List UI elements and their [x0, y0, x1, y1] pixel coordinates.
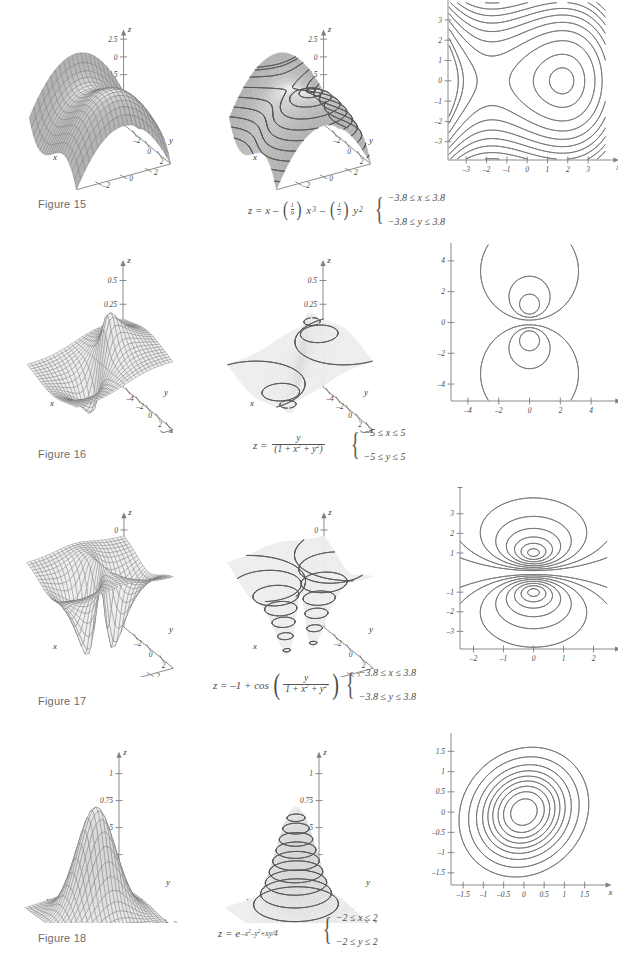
svg-text:–1: –1 [479, 890, 488, 899]
svg-text:–2: –2 [132, 136, 141, 145]
figure-16-label: Figure 16 [38, 448, 86, 460]
svg-text:x: x [249, 398, 254, 408]
svg-text:y: y [168, 624, 173, 634]
svg-text:0: 0 [114, 526, 118, 535]
svg-text:4: 4 [589, 406, 593, 415]
figure-15-wireframe: z2.50–2.5–5–7.5–20220–2xy [8, 0, 208, 190]
svg-text:2.5: 2.5 [108, 35, 118, 44]
contour-map-plot-17: –2–1012–3–2–1123xy [418, 487, 618, 677]
svg-text:0: 0 [148, 411, 152, 420]
svg-text:–2: –2 [469, 654, 478, 663]
svg-text:0.5: 0.5 [539, 890, 549, 899]
svg-text:0.5: 0.5 [436, 787, 446, 796]
svg-text:y: y [368, 624, 373, 634]
svg-text:1: 1 [450, 549, 454, 558]
svg-text:z: z [322, 747, 327, 757]
svg-text:0: 0 [314, 526, 318, 535]
svg-text:z: z [327, 24, 332, 34]
svg-text:z: z [127, 507, 132, 517]
svg-text:2: 2 [566, 165, 570, 174]
svg-text:1.5: 1.5 [436, 747, 446, 756]
svg-text:0: 0 [114, 53, 118, 62]
svg-text:2: 2 [154, 168, 158, 177]
svg-text:0.5: 0.5 [108, 276, 118, 285]
figure-row-16: z0.50.250–0.25–0.5–4–2024420–2–4xy z0.50… [0, 243, 623, 490]
svg-text:3: 3 [449, 509, 454, 518]
svg-text:–2: –2 [482, 165, 491, 174]
svg-text:x: x [617, 403, 618, 413]
svg-text:y: y [168, 135, 173, 145]
figure-16-contour-map: –4–2024–4–2024xy [418, 243, 618, 433]
svg-text:y: y [363, 387, 368, 397]
contour-map-plot-15: –3–2–10123–3–2–10123xy [418, 0, 618, 190]
svg-text:2: 2 [158, 420, 162, 429]
svg-text:0: 0 [314, 53, 318, 62]
svg-text:–4: –4 [437, 380, 446, 389]
svg-text:–3: –3 [446, 627, 455, 636]
svg-text:1: 1 [441, 767, 445, 776]
figure-15-contour-surface: z2.50–2.5–5–7.5–20220–2xy [208, 0, 408, 190]
svg-text:2: 2 [173, 920, 177, 923]
contour-surface-plot-16: z0.50.250–0.25–0.5–4–2024420–2–4xy [208, 243, 408, 433]
svg-text:4: 4 [169, 430, 173, 433]
svg-text:0: 0 [525, 165, 529, 174]
svg-text:z: z [126, 255, 131, 265]
svg-text:1: 1 [546, 165, 550, 174]
figure-17-domain-y: −3.8 ≤ y ≤ 3.8 [359, 691, 416, 702]
figure-17-contour-surface: z0–0.05–0.1–20220–2xy [208, 487, 408, 677]
svg-text:0.75: 0.75 [100, 796, 113, 805]
figure-18-wireframe: z10.750.50.250–2–1012210–1–2xy [8, 733, 208, 923]
figure-18-contour-surface: z10.750.50.250–2–1012210–1–2xy [208, 733, 408, 923]
svg-text:3: 3 [437, 16, 442, 25]
figure-row-18: z10.750.50.250–2–1012210–1–2xy z10.750.5… [0, 733, 623, 963]
svg-text:–3: –3 [434, 137, 443, 146]
figure-18-domain-x: −2 ≤ x ≤ 2 [336, 912, 378, 923]
contour-surface-plot-15: z2.50–2.5–5–7.5–20220–2xy [208, 0, 408, 190]
svg-text:0: 0 [441, 318, 445, 327]
figure-17-domain-x: −3.8 ≤ x ≤ 3.8 [359, 667, 416, 678]
wireframe-plot-16: z0.50.250–0.25–0.5–4–2024420–2–4xy [8, 243, 208, 433]
svg-text:–2: –2 [434, 117, 443, 126]
svg-text:–4: –4 [463, 406, 472, 415]
svg-text:y: y [163, 387, 168, 397]
svg-text:–2: –2 [494, 406, 503, 415]
svg-text:3: 3 [585, 165, 590, 174]
figure-17-contour-map: –2–1012–3–2–1123xy [418, 487, 618, 677]
svg-text:–1: –1 [437, 848, 446, 857]
svg-text:0: 0 [129, 174, 133, 183]
figure-17-equation: z = –1 + cos (y1 + x2 + y2) { −3.8 ≤ x ≤… [213, 667, 416, 702]
svg-text:2: 2 [360, 157, 364, 166]
figure-18-contour-map: –1.5–1–0.500.511.5–1.5–1–0.500.511.5xy [418, 733, 618, 923]
figure-15-equation-text: z = x – (19) x3 – (12) y2 [248, 201, 363, 218]
svg-text:1.5: 1.5 [580, 890, 590, 899]
figure-18-domain-y: −2 ≤ y ≤ 2 [336, 936, 378, 947]
svg-text:x: x [49, 398, 54, 408]
svg-text:2: 2 [441, 287, 445, 296]
svg-text:x: x [615, 162, 618, 172]
svg-text:0: 0 [329, 174, 333, 183]
wireframe-plot-18: z10.750.50.250–2–1012210–1–2xy [8, 733, 208, 923]
figure-18-label: Figure 18 [38, 932, 86, 944]
svg-text:z: z [127, 24, 132, 34]
svg-text:–2: –2 [135, 402, 144, 411]
figure-15-contour-map: –3–2–10123–3–2–10123xy [418, 0, 618, 190]
svg-text:y: y [165, 877, 170, 887]
svg-text:z: z [122, 747, 127, 757]
figure-16-domain: { −5 ≤ x ≤ 5 −5 ≤ y ≤ 5 [348, 427, 406, 462]
figure-row-15: z2.50–2.5–5–7.5–20220–2xy z2.50–2.5–5–7.… [0, 0, 623, 240]
svg-text:–4: –4 [125, 394, 134, 403]
figure-16-contour-surface: z0.50.250–0.25–0.5–4–2024420–2–4xy [208, 243, 408, 433]
svg-text:2: 2 [438, 36, 442, 45]
wireframe-plot-15: z2.50–2.5–5–7.5–20220–2xy [8, 0, 208, 190]
svg-text:–1: –1 [502, 165, 511, 174]
svg-text:0: 0 [349, 650, 353, 659]
figure-15-label: Figure 15 [38, 198, 86, 210]
svg-text:x: x [252, 641, 257, 651]
figure-17-equation-text: z = –1 + cos (y1 + x2 + y2) [213, 673, 340, 696]
svg-text:–4: –4 [325, 394, 334, 403]
svg-text:y: y [368, 135, 373, 145]
svg-text:2: 2 [558, 406, 562, 415]
svg-text:–2: –2 [335, 402, 344, 411]
svg-text:4: 4 [441, 256, 445, 265]
figure-17-label: Figure 17 [38, 695, 86, 707]
